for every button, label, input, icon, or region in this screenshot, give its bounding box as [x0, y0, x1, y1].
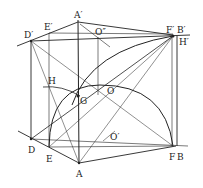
label-f-prime: F′ — [166, 25, 174, 35]
arc-g-b-prime — [72, 36, 173, 105]
label-h: H — [48, 76, 56, 86]
line-a-b-prime — [79, 36, 173, 163]
point-a — [78, 162, 80, 164]
arc-h-g — [43, 87, 80, 96]
label-h-prime: H′ — [179, 37, 189, 47]
label-d-prime: D′ — [24, 30, 33, 40]
label-b: B — [177, 152, 184, 162]
point-d-prime — [30, 40, 32, 42]
label-d: D — [28, 145, 35, 155]
label-o-prime: O′ — [110, 132, 119, 142]
label-a-prime: A′ — [73, 10, 83, 20]
line-e-f — [49, 146, 173, 147]
line-a-b — [79, 146, 176, 163]
point-d — [30, 138, 32, 140]
line-e-prime-f-prime — [49, 33, 173, 34]
label-o: O — [107, 86, 114, 96]
label-b-prime: B′ — [177, 25, 186, 35]
label-e-prime: E′ — [44, 22, 53, 32]
label-e: E — [46, 154, 53, 164]
line-d-prime-f — [31, 41, 173, 146]
geometric-diagram: A′ E′ D′ O″ F′ B′ H′ H G O O′ D E A F B — [0, 0, 203, 188]
label-o-dprime: O″ — [95, 27, 106, 37]
line-d-prime-a — [31, 41, 79, 163]
label-f: F — [169, 152, 175, 162]
line-d-prime-h-prime — [31, 35, 190, 41]
line-d-b-prime — [31, 36, 173, 139]
label-a: A — [75, 169, 83, 179]
label-g: G — [80, 96, 87, 106]
